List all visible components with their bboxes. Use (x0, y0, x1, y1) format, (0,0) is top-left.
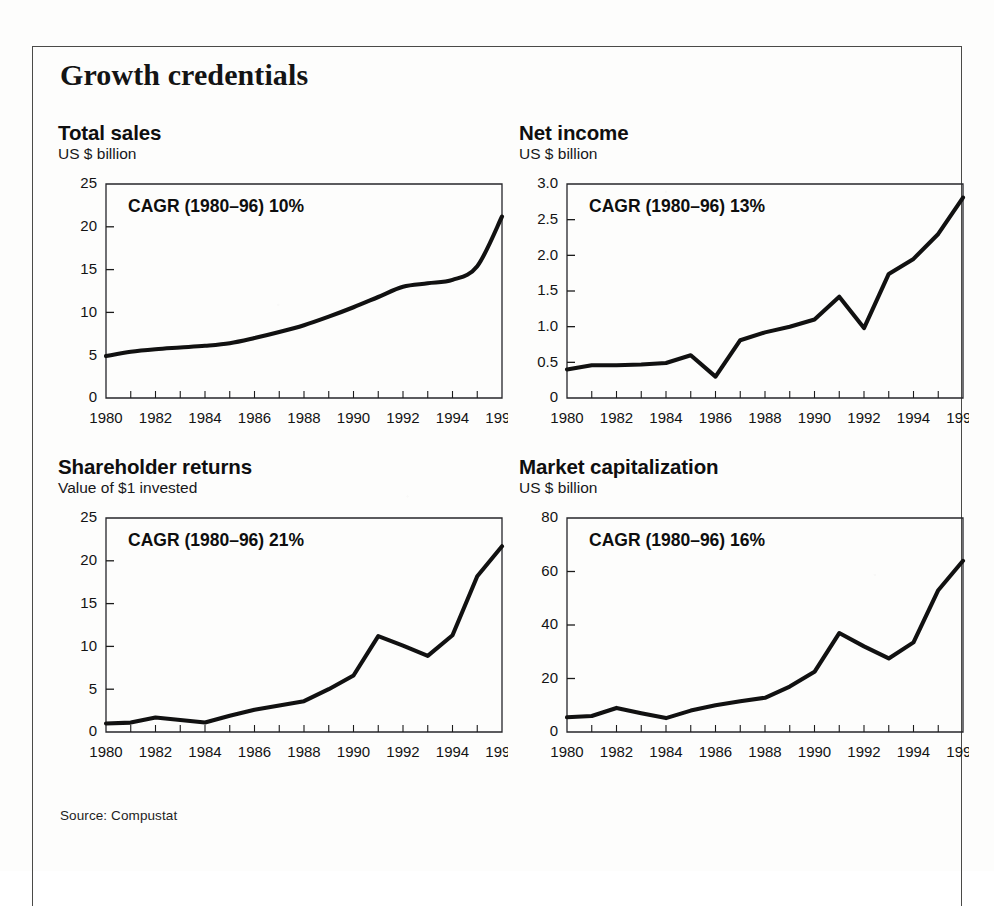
data-series-line (567, 197, 963, 376)
y-axis-label: 0 (89, 388, 97, 405)
x-axis-label: 1994 (436, 743, 469, 760)
y-axis-label: 25 (80, 174, 97, 191)
chart-plot-area: 00.51.01.52.02.53.0198019821984198619881… (519, 170, 969, 438)
y-axis-label: 15 (80, 594, 97, 611)
x-axis-label: 1982 (139, 743, 172, 760)
chart-title: Shareholder returns (58, 456, 508, 478)
plot-frame (567, 518, 963, 732)
y-axis-label: 2.0 (537, 245, 558, 262)
y-axis-label: 80 (541, 508, 558, 525)
cagr-annotation: CAGR (1980–96) 16% (589, 530, 765, 550)
x-axis-label: 1986 (238, 743, 271, 760)
chart-panel-total-sales: Total sales US $ billion 051015202519801… (58, 122, 508, 460)
x-axis-label: 1988 (748, 409, 781, 426)
y-axis-label: 2.5 (537, 210, 558, 227)
y-axis-label: 10 (80, 636, 97, 653)
x-axis-label: 1988 (287, 743, 320, 760)
x-axis-label: 1990 (798, 409, 831, 426)
cagr-annotation: CAGR (1980–96) 10% (128, 196, 304, 216)
chart-subtitle: Value of $1 invested (58, 479, 508, 497)
x-axis-label: 1990 (337, 743, 370, 760)
y-axis-label: 5 (89, 345, 97, 362)
x-axis-label: 1996 (485, 743, 508, 760)
x-axis-label: 1984 (649, 743, 682, 760)
x-axis-label: 1996 (946, 409, 969, 426)
figure-content: Growth credentials Total sales US $ bill… (32, 46, 962, 871)
page-title: Growth credentials (60, 58, 308, 92)
x-axis-label: 1980 (550, 409, 583, 426)
y-axis-label: 20 (80, 217, 97, 234)
chart-plot-area: 0204060801980198219841986198819901992199… (519, 504, 969, 772)
y-axis-label: 40 (541, 615, 558, 632)
x-axis-label: 1980 (89, 409, 122, 426)
y-axis-label: 0.5 (537, 352, 558, 369)
y-axis-label: 60 (541, 562, 558, 579)
source-note: Source: Compustat (60, 808, 177, 823)
x-axis-label: 1992 (847, 743, 880, 760)
x-axis-label: 1982 (139, 409, 172, 426)
y-axis-label: 0 (89, 722, 97, 739)
line-chart-market-capitalization: 0204060801980198219841986198819901992199… (519, 504, 969, 772)
x-axis-label: 1986 (699, 409, 732, 426)
x-axis-label: 1992 (847, 409, 880, 426)
y-axis-label: 15 (80, 260, 97, 277)
data-series-line (567, 560, 963, 717)
data-series-line (106, 546, 502, 723)
chart-subtitle: US $ billion (519, 479, 969, 497)
cagr-annotation: CAGR (1980–96) 21% (128, 530, 304, 550)
chart-panel-market-capitalization: Market capitalization US $ billion 02040… (519, 456, 969, 794)
chart-title: Total sales (58, 122, 508, 144)
chart-panel-shareholder-returns: Shareholder returns Value of $1 invested… (58, 456, 508, 794)
line-chart-net-income: 00.51.01.52.02.53.0198019821984198619881… (519, 170, 969, 438)
x-axis-label: 1994 (436, 409, 469, 426)
y-axis-label: 5 (89, 679, 97, 696)
y-axis-label: 3.0 (537, 174, 558, 191)
chart-subtitle: US $ billion (58, 145, 508, 163)
y-axis-label: 0 (550, 388, 558, 405)
plot-frame (106, 184, 502, 398)
x-axis-label: 1990 (337, 409, 370, 426)
x-axis-label: 1994 (897, 409, 930, 426)
x-axis-label: 1988 (748, 743, 781, 760)
x-axis-label: 1980 (89, 743, 122, 760)
y-axis-label: 20 (541, 669, 558, 686)
x-axis-label: 1982 (600, 743, 633, 760)
y-axis-label: 25 (80, 508, 97, 525)
y-axis-label: 1.5 (537, 281, 558, 298)
x-axis-label: 1980 (550, 743, 583, 760)
x-axis-label: 1988 (287, 409, 320, 426)
x-axis-label: 1982 (600, 409, 633, 426)
x-axis-label: 1992 (386, 409, 419, 426)
chart-title: Market capitalization (519, 456, 969, 478)
x-axis-label: 1986 (699, 743, 732, 760)
chart-plot-area: 0510152025198019821984198619881990199219… (58, 170, 508, 438)
y-axis-label: 0 (550, 722, 558, 739)
x-axis-label: 1986 (238, 409, 271, 426)
x-axis-label: 1984 (649, 409, 682, 426)
data-series-line (106, 216, 502, 356)
x-axis-label: 1984 (188, 743, 221, 760)
cagr-annotation: CAGR (1980–96) 13% (589, 196, 765, 216)
chart-plot-area: 0510152025198019821984198619881990199219… (58, 504, 508, 772)
x-axis-label: 1994 (897, 743, 930, 760)
y-axis-label: 10 (80, 302, 97, 319)
line-chart-total-sales: 0510152025198019821984198619881990199219… (58, 170, 508, 438)
chart-subtitle: US $ billion (519, 145, 969, 163)
x-axis-label: 1984 (188, 409, 221, 426)
y-axis-label: 20 (80, 551, 97, 568)
chart-panel-net-income: Net income US $ billion 00.51.01.52.02.5… (519, 122, 969, 460)
x-axis-label: 1996 (485, 409, 508, 426)
x-axis-label: 1990 (798, 743, 831, 760)
x-axis-label: 1992 (386, 743, 419, 760)
y-axis-label: 1.0 (537, 317, 558, 334)
x-axis-label: 1996 (946, 743, 969, 760)
line-chart-shareholder-returns: 0510152025198019821984198619881990199219… (58, 504, 508, 772)
chart-title: Net income (519, 122, 969, 144)
